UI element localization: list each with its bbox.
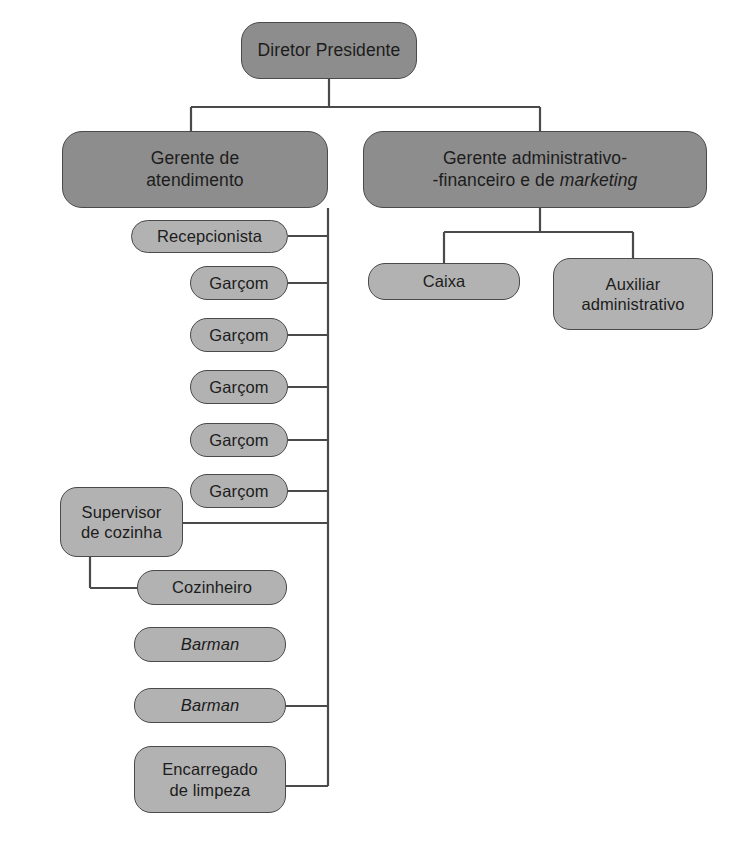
node-label: Barman	[141, 695, 279, 715]
node-label-line1: Gerente administrativo-	[443, 148, 627, 168]
node-label: Supervisor de cozinha	[67, 502, 176, 543]
node-label: Barman	[141, 634, 279, 654]
node-garcom-1[interactable]: Garçom	[190, 266, 288, 300]
node-label: Garçom	[197, 377, 281, 397]
node-gerente-atendimento[interactable]: Gerente de atendimento	[62, 131, 328, 208]
node-barman-2[interactable]: Barman	[134, 688, 286, 723]
node-label-line2-prefix: -financeiro e de	[433, 170, 560, 190]
node-barman-1[interactable]: Barman	[134, 627, 286, 662]
node-label: Auxiliar administrativo	[560, 274, 706, 315]
node-garcom-3[interactable]: Garçom	[190, 370, 288, 404]
node-label-line2: de limpeza	[170, 781, 251, 799]
node-label-line2-italic: marketing	[560, 170, 638, 190]
node-label: Garçom	[197, 273, 281, 293]
node-supervisor-cozinha[interactable]: Supervisor de cozinha	[60, 487, 183, 557]
node-label-line2: administrativo	[581, 295, 684, 313]
node-auxiliar-administrativo[interactable]: Auxiliar administrativo	[553, 258, 713, 330]
node-recepcionista[interactable]: Recepcionista	[131, 220, 288, 253]
org-chart: Diretor Presidente Gerente de atendiment…	[0, 0, 731, 842]
node-garcom-4[interactable]: Garçom	[190, 423, 288, 457]
node-label: Gerente de atendimento	[69, 148, 321, 191]
node-label: Recepcionista	[138, 226, 281, 246]
node-label-line1: Gerente de	[151, 148, 240, 168]
node-garcom-5[interactable]: Garçom	[190, 474, 288, 508]
node-label-line1: Encarregado	[162, 760, 258, 778]
node-diretor-presidente[interactable]: Diretor Presidente	[241, 22, 417, 79]
node-label: Encarregado de limpeza	[141, 759, 279, 800]
node-label: Garçom	[197, 481, 281, 501]
node-label-line2: atendimento	[146, 170, 243, 190]
connector-lines	[0, 0, 731, 842]
node-encarregado-limpeza[interactable]: Encarregado de limpeza	[134, 746, 286, 813]
node-cozinheiro[interactable]: Cozinheiro	[137, 570, 287, 605]
node-garcom-2[interactable]: Garçom	[190, 318, 288, 352]
node-label: Gerente administrativo- -financeiro e de…	[370, 148, 700, 191]
node-label: Garçom	[197, 430, 281, 450]
node-label: Caixa	[375, 271, 513, 291]
node-label: Cozinheiro	[144, 577, 280, 597]
node-label-line2: de cozinha	[81, 523, 162, 541]
node-gerente-administrativo[interactable]: Gerente administrativo- -financeiro e de…	[363, 131, 707, 208]
node-caixa[interactable]: Caixa	[368, 263, 520, 300]
node-label: Garçom	[197, 325, 281, 345]
node-label-line1: Supervisor	[82, 503, 162, 521]
node-label: Diretor Presidente	[248, 40, 410, 62]
node-label-line1: Auxiliar	[606, 275, 661, 293]
